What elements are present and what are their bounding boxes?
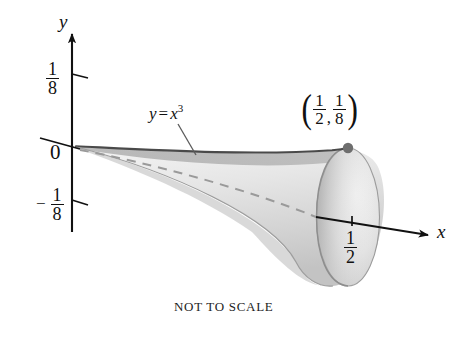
y-tick-label-positive-eighth: 1 8 bbox=[46, 60, 59, 98]
fraction-numerator: 1 bbox=[333, 92, 346, 109]
fraction-numerator: 1 bbox=[51, 186, 64, 204]
solid-of-revolution-figure: y x 0 1 8 − 1 8 1 2 y=x3 ( 1 2 , bbox=[0, 0, 468, 337]
point-coordinate-label: ( 1 2 , 1 8 ) bbox=[300, 92, 359, 128]
open-paren: ( bbox=[301, 93, 311, 125]
equation-operator: = bbox=[157, 104, 171, 123]
equation-lhs: y bbox=[149, 104, 157, 123]
y-tick-label-negative-eighth: − 1 8 bbox=[36, 186, 64, 224]
coordinate-separator: , bbox=[326, 109, 333, 128]
curve-equation-label: y=x3 bbox=[149, 105, 183, 122]
fraction-denominator: 8 bbox=[333, 109, 346, 127]
fraction-denominator: 8 bbox=[46, 78, 59, 97]
x-axis-label: x bbox=[437, 222, 445, 241]
y-tick-positive-eighth bbox=[72, 74, 88, 78]
point-marker-dot bbox=[343, 143, 353, 153]
y-axis-label: y bbox=[59, 12, 67, 31]
x-tick-label-half: 1 2 bbox=[344, 229, 357, 267]
origin-label: 0 bbox=[50, 142, 61, 163]
solid-of-revolution bbox=[76, 146, 384, 286]
fraction-denominator: 2 bbox=[313, 109, 326, 127]
equation-exponent: 3 bbox=[178, 102, 184, 114]
figure-caption: NOT TO SCALE bbox=[174, 299, 273, 315]
fraction-denominator: 2 bbox=[344, 247, 357, 266]
y-tick-negative-eighth bbox=[72, 200, 88, 205]
fraction-numerator: 1 bbox=[344, 229, 357, 247]
figure-canvas bbox=[0, 0, 468, 337]
fraction-denominator: 8 bbox=[51, 204, 64, 223]
fraction-numerator: 1 bbox=[46, 60, 59, 78]
equation-base: x bbox=[170, 104, 178, 123]
minus-sign: − bbox=[36, 195, 47, 212]
close-paren: ) bbox=[347, 93, 357, 125]
fraction-numerator: 1 bbox=[313, 92, 326, 109]
